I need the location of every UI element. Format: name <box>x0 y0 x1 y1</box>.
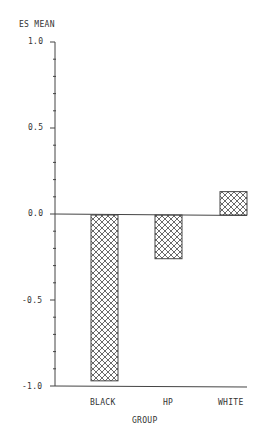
bars <box>91 192 247 381</box>
bar-black <box>91 215 118 381</box>
bar-white <box>220 192 247 215</box>
bar-hp <box>155 215 182 259</box>
chart-plot <box>0 0 265 439</box>
axes <box>50 42 247 387</box>
